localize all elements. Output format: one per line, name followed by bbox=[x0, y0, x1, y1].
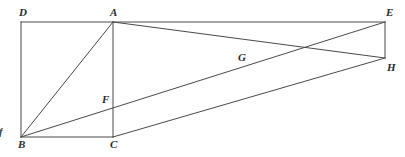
vertex-label-B: B bbox=[18, 139, 25, 150]
vertex-label-F: F bbox=[102, 94, 109, 105]
vertex-label-H: H bbox=[387, 62, 396, 73]
edge-B-E-diagonal bbox=[21, 22, 385, 137]
geometry-figure: D A E H G F B C f bbox=[0, 0, 405, 157]
edge-A-B-diagonal bbox=[21, 22, 113, 137]
edge-group bbox=[21, 22, 385, 137]
vertex-label-G: G bbox=[238, 52, 246, 63]
edge-C-H-diagonal bbox=[113, 58, 385, 137]
left-edge-clipped-glyph: f bbox=[0, 126, 3, 137]
vertex-label-C: C bbox=[110, 139, 117, 150]
vertex-label-E: E bbox=[386, 7, 393, 18]
vertex-label-A: A bbox=[110, 7, 117, 18]
edge-A-H-diagonal bbox=[113, 22, 385, 58]
figure-canvas bbox=[0, 0, 405, 157]
vertex-label-D: D bbox=[19, 7, 27, 18]
